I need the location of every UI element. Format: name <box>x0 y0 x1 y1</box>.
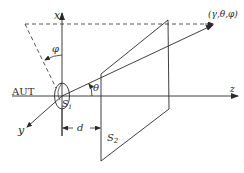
y-axis <box>27 96 62 127</box>
s2-label: S2 <box>107 132 119 145</box>
distance-label: d <box>77 122 83 133</box>
aut-label: AUT <box>11 86 35 97</box>
phi-label: φ <box>52 43 59 54</box>
x-axis-label: x <box>54 9 61 22</box>
observation-point-label: (γ,θ,φ) <box>208 9 238 19</box>
dashed-projection-line <box>25 24 56 88</box>
z-axis-label: z <box>229 84 235 94</box>
observation-ray <box>62 25 213 96</box>
theta-label: θ <box>93 82 99 93</box>
s1-label: S1 <box>62 99 72 110</box>
y-axis-label: y <box>17 124 25 137</box>
theta-angle-arc <box>89 84 92 96</box>
coordinate-diagram: x y z AUT φ θ (γ,θ,φ) d S1 S2 <box>0 0 244 173</box>
phi-angle-arc <box>45 55 62 60</box>
diagram-canvas: x y z AUT φ θ (γ,θ,φ) d S1 S2 <box>0 0 244 173</box>
